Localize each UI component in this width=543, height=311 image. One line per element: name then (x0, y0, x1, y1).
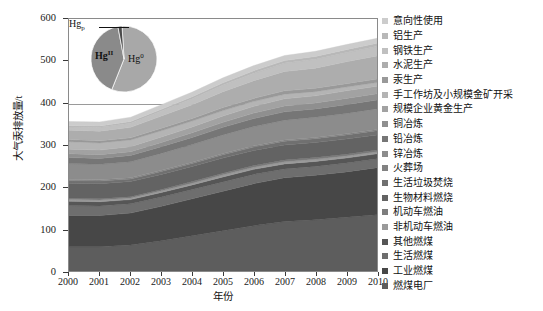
x-tick-mark (99, 272, 100, 276)
legend-item-label: 铅冶炼 (393, 134, 423, 144)
y-axis: 0100200300400500600 (0, 0, 66, 311)
pie-label-hg2: HgII (95, 49, 113, 61)
pie-label-hg0: Hg0 (128, 52, 144, 64)
legend-item-label: 燃煤电厂 (393, 281, 433, 291)
x-tick-mark (68, 272, 69, 276)
legend-item-label: 非机动车燃油 (393, 222, 453, 232)
y-tick-label: 400 (40, 97, 56, 108)
legend-item-label: 汞生产 (393, 75, 423, 85)
legend-item-label: 火葬场 (393, 163, 423, 173)
legend-item[interactable]: 燃煤电厂 (382, 278, 542, 293)
legend-swatch-icon (382, 224, 388, 230)
legend-swatch-icon (382, 268, 388, 274)
y-tick-label: 100 (40, 224, 56, 235)
x-tick-label: 2003 (151, 276, 171, 287)
legend-item[interactable]: 火葬场 (382, 161, 542, 176)
legend-item[interactable]: 生活垃圾焚烧 (382, 176, 542, 191)
x-tick-label: 2008 (306, 276, 326, 287)
legend-item-label: 锌冶炼 (393, 149, 423, 159)
legend-item[interactable]: 水泥生产 (382, 58, 542, 73)
legend-item-label: 机动车燃油 (393, 207, 443, 217)
x-tick-mark (316, 272, 317, 276)
legend-item[interactable]: 汞生产 (382, 73, 542, 88)
legend-item-label: 钢铁生产 (393, 46, 433, 56)
legend-item-label: 生活垃圾焚烧 (393, 178, 453, 188)
y-tick-label: 200 (40, 182, 56, 193)
legend-swatch-icon (382, 106, 388, 112)
legend-swatch-icon (382, 136, 388, 142)
legend-item[interactable]: 铜冶炼 (382, 117, 542, 132)
legend-swatch-icon (382, 209, 388, 215)
x-tick-label: 2005 (213, 276, 233, 287)
legend-item-label: 其他燃煤 (393, 237, 433, 247)
legend-item-label: 铝生产 (393, 31, 423, 41)
legend-item-label: 生活燃煤 (393, 251, 433, 261)
x-tick-label: 2000 (58, 276, 78, 287)
legend-swatch-icon (382, 121, 388, 127)
legend-item[interactable]: 其他燃煤 (382, 234, 542, 249)
legend-item[interactable]: 钢铁生产 (382, 43, 542, 58)
x-tick-label: 2002 (120, 276, 140, 287)
chart-figure: 大气汞排放量/t 0100200300400500600 20002001200… (0, 0, 543, 311)
legend-item[interactable]: 锌冶炼 (382, 146, 542, 161)
legend: 意向性使用铝生产钢铁生产水泥生产汞生产手工作坊及小规模金矿开采规模企业黄金生产铜… (382, 14, 542, 293)
pie-leader-line (99, 27, 129, 28)
legend-swatch-icon (382, 33, 388, 39)
legend-item-label: 手工作坊及小规模金矿开采 (393, 90, 513, 100)
x-tick-mark (130, 272, 131, 276)
x-tick-mark (161, 272, 162, 276)
legend-item-label: 生物材料燃烧 (393, 193, 453, 203)
y-tick-label: 300 (40, 140, 56, 151)
legend-item[interactable]: 机动车燃油 (382, 205, 542, 220)
y-tick-label: 0 (51, 267, 56, 278)
legend-item[interactable]: 工业燃煤 (382, 264, 542, 279)
legend-swatch-icon (382, 92, 388, 98)
x-tick-label: 2007 (275, 276, 295, 287)
legend-item[interactable]: 非机动车燃油 (382, 220, 542, 235)
y-tick-label: 500 (40, 55, 56, 66)
x-tick-mark (254, 272, 255, 276)
legend-swatch-icon (382, 48, 388, 54)
legend-swatch-icon (382, 195, 388, 201)
legend-item-label: 工业燃煤 (393, 266, 433, 276)
x-tick-mark (347, 272, 348, 276)
legend-item[interactable]: 规模企业黄金生产 (382, 102, 542, 117)
pie-label-hgp: Hgp (69, 18, 85, 32)
legend-swatch-icon (382, 62, 388, 68)
y-tick-label: 600 (40, 13, 56, 24)
legend-swatch-icon (382, 77, 388, 83)
x-tick-label: 2009 (337, 276, 357, 287)
inset-pie-chart: Hg0 HgII Hgp (84, 22, 164, 96)
legend-item-label: 规模企业黄金生产 (393, 104, 473, 114)
legend-item[interactable]: 生活燃煤 (382, 249, 542, 264)
legend-item[interactable]: 意向性使用 (382, 14, 542, 29)
legend-swatch-icon (382, 151, 388, 157)
legend-swatch-icon (382, 253, 388, 259)
legend-item[interactable]: 生物材料燃烧 (382, 190, 542, 205)
legend-swatch-icon (382, 18, 388, 24)
legend-swatch-icon (382, 283, 388, 289)
x-tick-label: 2004 (182, 276, 202, 287)
legend-item-label: 意向性使用 (393, 16, 443, 26)
legend-item[interactable]: 铝生产 (382, 29, 542, 44)
legend-item[interactable]: 手工作坊及小规模金矿开采 (382, 87, 542, 102)
x-tick-mark (192, 272, 193, 276)
legend-swatch-icon (382, 239, 388, 245)
x-tick-mark (285, 272, 286, 276)
x-tick-mark (378, 272, 379, 276)
x-axis-title: 年份 (0, 288, 446, 303)
legend-item-label: 水泥生产 (393, 60, 433, 70)
legend-item[interactable]: 铅冶炼 (382, 132, 542, 147)
x-tick-label: 2006 (244, 276, 264, 287)
legend-item-label: 铜冶炼 (393, 119, 423, 129)
x-tick-mark (223, 272, 224, 276)
legend-swatch-icon (382, 180, 388, 186)
x-tick-label: 2001 (89, 276, 109, 287)
legend-swatch-icon (382, 165, 388, 171)
